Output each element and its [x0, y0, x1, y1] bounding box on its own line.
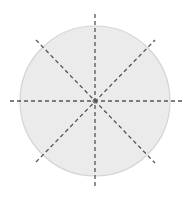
symmetry-diagram — [0, 0, 190, 202]
